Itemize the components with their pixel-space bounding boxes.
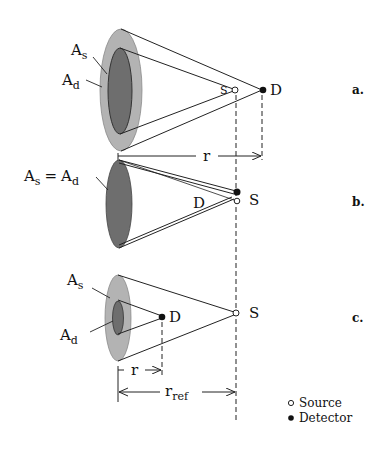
panel-label-b: b. bbox=[352, 195, 365, 209]
source-marker-a bbox=[232, 87, 238, 93]
detector-legend-icon bbox=[288, 415, 294, 421]
source-label-b: S bbox=[249, 191, 259, 209]
detector-label-c: D bbox=[169, 308, 181, 326]
distance-label-c: r bbox=[131, 361, 139, 379]
panel-c: D S As Ad r rref c. bbox=[59, 271, 363, 403]
panel-label-a: a. bbox=[352, 83, 364, 97]
detector-area-label-c: Ad bbox=[59, 326, 78, 347]
equal-area-label-b: As=Ad bbox=[23, 167, 79, 188]
detector-marker-a bbox=[260, 87, 267, 94]
source-marker-b bbox=[234, 198, 240, 204]
source-area-label-c: As bbox=[66, 271, 84, 292]
panel-b: S D As=Ad b. bbox=[23, 160, 365, 248]
detector-label-a: D bbox=[270, 81, 282, 99]
source-marker-c bbox=[233, 310, 239, 316]
legend-detector-label: Detector bbox=[299, 411, 352, 425]
source-label-c: S bbox=[249, 304, 259, 322]
detector-marker-b bbox=[234, 189, 241, 196]
source-area-label-a: As bbox=[70, 41, 88, 62]
source-label-a: S bbox=[220, 84, 228, 97]
geometry-diagram: S D As Ad r a. S D As=Ad b. bbox=[0, 0, 388, 460]
detector-area-label-a: Ad bbox=[61, 71, 80, 92]
legend-source-label: Source bbox=[299, 396, 342, 410]
source-legend-icon bbox=[288, 400, 293, 405]
detector-label-b: D bbox=[193, 194, 205, 212]
distance-label-a: r bbox=[203, 147, 211, 165]
legend: Source Detector bbox=[288, 396, 352, 425]
ref-distance-label-c: rref bbox=[165, 382, 189, 403]
panel-a: S D As Ad r a. bbox=[61, 29, 364, 420]
detector-area-ellipse-c bbox=[113, 301, 124, 335]
detector-marker-c bbox=[159, 314, 166, 321]
panel-label-c: c. bbox=[352, 311, 363, 325]
equal-area-ellipse-b bbox=[106, 160, 132, 248]
detector-area-ellipse-a bbox=[108, 48, 132, 134]
